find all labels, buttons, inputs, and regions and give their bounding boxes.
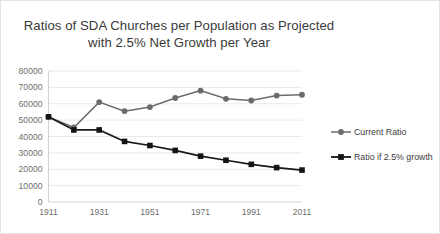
series-ratio-if-growth — [46, 114, 305, 173]
chart-legend: Current RatioRatio if 2.5% growth — [331, 127, 433, 162]
data-point-marker — [46, 114, 52, 120]
y-axis-tick-label: 60000 — [19, 99, 43, 109]
legend-label: Current Ratio — [354, 127, 406, 137]
data-point-marker — [248, 98, 254, 104]
x-axis-tick-label: 1971 — [191, 207, 210, 217]
x-axis-tick-label: 1991 — [242, 207, 261, 217]
y-axis-tick-label: 0 — [38, 197, 43, 207]
legend-label: Ratio if 2.5% growth — [354, 152, 433, 162]
x-axis-tick-label: 2011 — [293, 207, 312, 217]
series-line — [49, 117, 303, 170]
line-chart: 0100002000030000400005000060000700008000… — [1, 1, 440, 234]
data-point-marker — [172, 148, 178, 154]
data-point-marker — [299, 92, 305, 98]
series-current-ratio — [46, 88, 305, 131]
data-point-marker — [198, 153, 204, 159]
x-axis-tick-labels: 191119311951197119912011 — [39, 207, 311, 217]
data-point-marker — [249, 162, 255, 168]
data-point-marker — [223, 96, 229, 102]
data-point-marker — [96, 127, 102, 133]
y-axis-tick-label: 50000 — [19, 115, 43, 125]
x-axis-tick-label: 1951 — [140, 207, 159, 217]
data-series-layer — [46, 88, 305, 173]
data-point-marker — [223, 157, 229, 163]
chart-frame: Ratios of SDA Churches per Population as… — [0, 0, 440, 234]
data-point-marker — [299, 167, 305, 173]
legend-marker — [338, 154, 344, 160]
y-axis-tick-label: 80000 — [19, 66, 43, 76]
data-point-marker — [122, 139, 128, 145]
data-point-marker — [71, 127, 77, 133]
data-point-marker — [147, 104, 153, 110]
data-point-marker — [122, 108, 128, 114]
data-point-marker — [172, 95, 178, 101]
data-point-marker — [96, 99, 102, 105]
data-point-marker — [274, 93, 280, 99]
data-point-marker — [274, 165, 280, 171]
x-axis-tick-label: 1911 — [39, 207, 58, 217]
y-axis-tick-labels: 0100002000030000400005000060000700008000… — [19, 66, 43, 207]
legend-item[interactable]: Current Ratio — [331, 127, 406, 137]
data-point-marker — [198, 88, 204, 94]
y-axis-tick-label: 70000 — [19, 82, 43, 92]
y-axis-tick-label: 30000 — [19, 148, 43, 158]
y-axis-tick-label: 40000 — [19, 132, 43, 142]
plot-area-container: 0100002000030000400005000060000700008000… — [1, 1, 440, 234]
y-axis-tick-label: 10000 — [19, 181, 43, 191]
legend-item[interactable]: Ratio if 2.5% growth — [331, 152, 433, 162]
x-axis-tick-label: 1931 — [90, 207, 109, 217]
y-axis-tick-label: 20000 — [19, 164, 43, 174]
data-point-marker — [147, 143, 153, 149]
gridlines-group — [49, 71, 303, 186]
legend-marker — [338, 129, 344, 135]
